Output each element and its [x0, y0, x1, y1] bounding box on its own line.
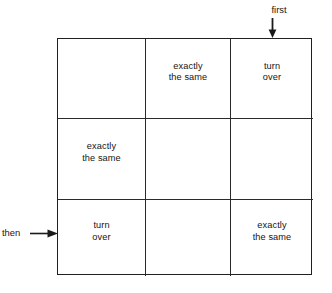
grid-cell-r1c1[interactable] — [58, 39, 146, 119]
grid-cell-r3c2[interactable] — [146, 200, 231, 276]
grid-cell-r2c1[interactable]: exactly the same — [58, 119, 146, 200]
grid-cell-r1c3[interactable]: turn over — [231, 39, 313, 119]
grid-cell-label: exactly the same — [169, 61, 208, 83]
arrow-right-icon — [30, 228, 58, 239]
grid-cell-label: exactly the same — [253, 220, 292, 242]
annotation-then-label: then — [2, 227, 20, 238]
grid-table: exactly the same turn over exactly the s… — [57, 38, 312, 275]
grid-cell-r2c2[interactable] — [146, 119, 231, 200]
grid-cell-r3c1[interactable]: turn over — [58, 200, 146, 276]
grid-cell-label: turn over — [263, 61, 281, 83]
grid-cell-label: turn over — [92, 220, 110, 242]
arrow-down-icon — [268, 18, 277, 38]
grid-cell-r1c2[interactable]: exactly the same — [146, 39, 231, 119]
grid-cell-label: exactly the same — [82, 141, 121, 163]
grid-cell-r2c3[interactable] — [231, 119, 313, 200]
grid-cell-r3c3[interactable]: exactly the same — [231, 200, 313, 276]
diagram-root: first then exactly the same turn over ex… — [0, 0, 332, 293]
annotation-first-label: first — [256, 4, 302, 15]
